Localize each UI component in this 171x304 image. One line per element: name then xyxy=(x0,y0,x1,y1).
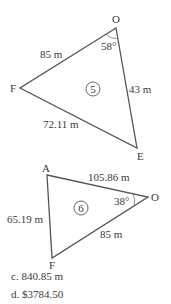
side-label-fe-5: 72.11 m xyxy=(43,118,79,130)
angle-arc-o-5 xyxy=(106,34,118,39)
angle-label-o-6: 38° xyxy=(114,195,129,207)
angle-arc-o-6 xyxy=(133,194,135,206)
answer-d: d. $3784.50 xyxy=(11,288,63,300)
side-label-oe-5: 43 m xyxy=(129,83,152,95)
side-label-of-6: 85 m xyxy=(100,228,123,240)
region-label-6: 6 xyxy=(78,202,84,214)
region-label-5: 5 xyxy=(90,83,96,95)
triangle-5: 5 O F E 85 m 43 m 72.11 m 58° xyxy=(10,13,152,162)
vertex-label-e-5: E xyxy=(137,150,144,162)
triangle-6: 6 A O F 105.86 m 65.19 m 85 m 38° xyxy=(7,162,159,271)
side-label-af-6: 65.19 m xyxy=(7,213,44,225)
vertex-label-a-6: A xyxy=(42,162,50,174)
vertex-label-o-5: O xyxy=(112,13,120,25)
triangle-5-shape xyxy=(20,28,137,148)
vertex-label-o-6: O xyxy=(151,191,159,203)
answer-c: c. 840.85 m xyxy=(11,270,63,282)
side-label-ao-6: 105.86 m xyxy=(88,171,130,183)
angle-label-o-5: 58° xyxy=(101,40,116,52)
diagram-canvas: 5 O F E 85 m 43 m 72.11 m 58° 6 A O F 10… xyxy=(0,0,171,304)
vertex-label-f-5: F xyxy=(10,82,16,94)
triangle-6-shape xyxy=(47,175,148,258)
side-label-of-5: 85 m xyxy=(40,48,63,60)
